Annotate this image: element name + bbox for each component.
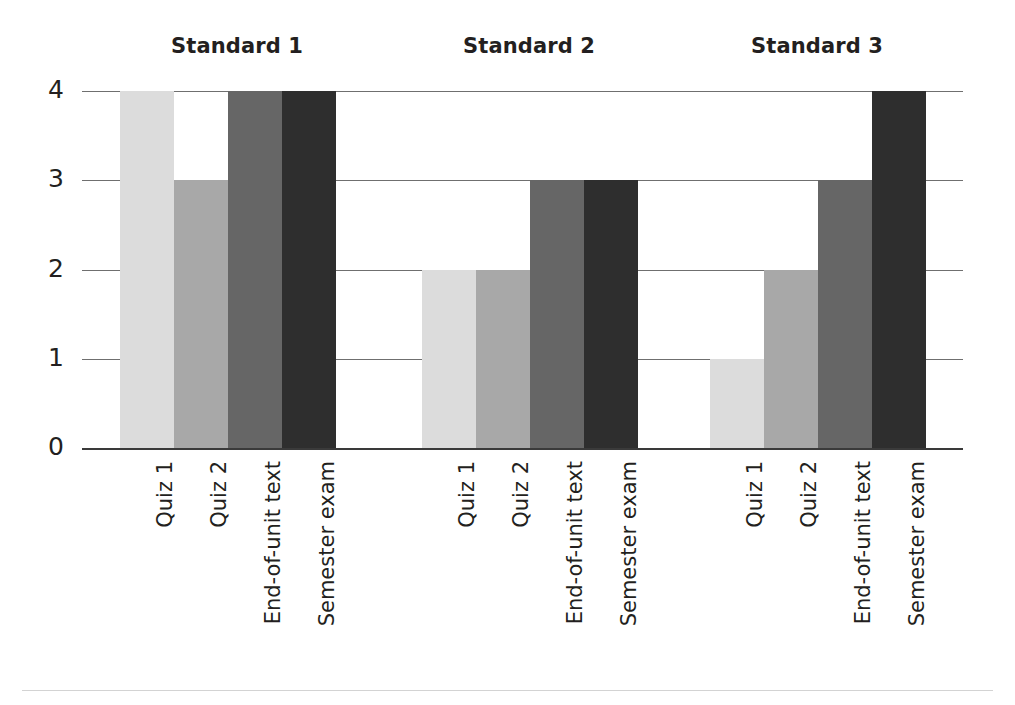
bar [228, 91, 282, 448]
bar [422, 270, 476, 449]
y-tick-label: 4 [36, 77, 64, 102]
bottom-divider [22, 690, 993, 691]
bar [120, 91, 174, 448]
x-axis-label: End-of-unit text [565, 461, 586, 624]
x-axis-label: Quiz 2 [799, 461, 820, 528]
axis-baseline [82, 448, 963, 450]
bar [764, 270, 818, 449]
bar-group [710, 91, 926, 448]
x-axis-label: Quiz 1 [745, 461, 766, 528]
bar [530, 180, 584, 448]
y-axis: 4 3 2 1 0 [30, 91, 64, 448]
x-axis-label: Semester exam [317, 461, 338, 626]
bar [476, 270, 530, 449]
group-title-standard-3: Standard 3 [697, 34, 937, 58]
x-axis-label: Quiz 1 [457, 461, 478, 528]
x-axis-label: Semester exam [907, 461, 928, 626]
x-axis-label: Quiz 2 [209, 461, 230, 528]
bar [872, 91, 926, 448]
plot-area [82, 91, 963, 448]
y-tick-label: 0 [36, 434, 64, 459]
bar [174, 180, 228, 448]
x-axis-label: End-of-unit text [853, 461, 874, 624]
y-tick-label: 3 [36, 166, 64, 191]
bar-group [422, 91, 638, 448]
x-axis-label: Quiz 1 [155, 461, 176, 528]
bar [584, 180, 638, 448]
bar-group [120, 91, 336, 448]
x-axis-label: End-of-unit text [263, 461, 284, 624]
bar [282, 91, 336, 448]
group-title-standard-1: Standard 1 [117, 34, 357, 58]
x-axis-label: Quiz 2 [511, 461, 532, 528]
y-tick-label: 2 [36, 256, 64, 281]
bar-chart: Standard 1 Standard 2 Standard 3 4 3 2 1… [0, 0, 1015, 705]
y-tick-label: 1 [36, 345, 64, 370]
group-title-standard-2: Standard 2 [409, 34, 649, 58]
bar [710, 359, 764, 448]
x-axis-label: Semester exam [619, 461, 640, 626]
bar [818, 180, 872, 448]
